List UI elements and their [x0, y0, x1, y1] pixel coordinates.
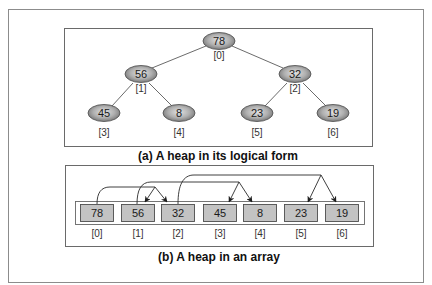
array-caption: (b) A heap in an array [158, 250, 280, 264]
cell-value: 8 [257, 207, 263, 219]
tree-caption: (a) A heap in its logical form [138, 149, 298, 163]
node-index: [0] [213, 50, 224, 61]
cell-index: [6] [336, 228, 347, 239]
cell-index: [0] [91, 228, 102, 239]
node-index: [4] [173, 127, 184, 138]
node-value: 19 [327, 107, 339, 119]
cell-index: [5] [295, 228, 306, 239]
cell-value: 23 [295, 207, 307, 219]
node-value: 23 [251, 107, 263, 119]
node-index: [1] [135, 83, 146, 94]
cell-index: [4] [254, 228, 265, 239]
cell-value: 56 [132, 207, 144, 219]
node-index: [2] [289, 83, 300, 94]
node-index: [6] [327, 127, 338, 138]
node-value: 45 [98, 107, 110, 119]
cell-value: 32 [172, 207, 184, 219]
cell-value: 19 [336, 207, 348, 219]
node-value: 32 [289, 68, 301, 80]
heap-figure: 78 [0] 56 [1] 32 [2] 45 [3] 8 [4] 23 [5]… [0, 0, 432, 285]
node-value: 78 [213, 35, 225, 47]
cell-value: 78 [91, 207, 103, 219]
node-value: 8 [176, 107, 182, 119]
node-index: [5] [251, 127, 262, 138]
node-index: [3] [98, 127, 109, 138]
cell-index: [1] [132, 228, 143, 239]
cell-value: 45 [214, 207, 226, 219]
node-value: 56 [135, 68, 147, 80]
cell-index: [2] [172, 228, 183, 239]
cell-index: [3] [214, 228, 225, 239]
